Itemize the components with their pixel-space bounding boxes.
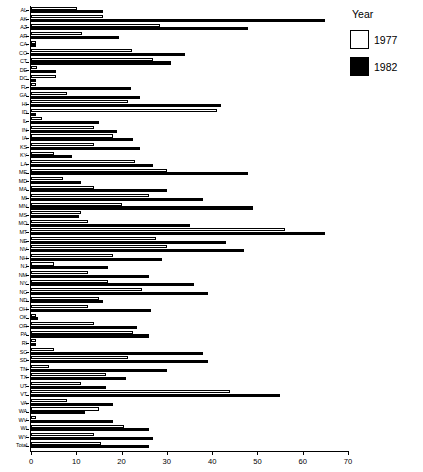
bar-1982: [31, 249, 244, 252]
bar-group: [31, 339, 348, 348]
bar-1977: [31, 7, 77, 10]
bar-group: [31, 160, 348, 169]
bar-1982: [31, 61, 171, 64]
bar-1977: [31, 433, 94, 436]
y-axis-tick: [26, 420, 29, 421]
bar-group: [31, 296, 348, 305]
bar-1982: [31, 198, 203, 201]
y-axis-tick: [26, 224, 29, 225]
bar-1982: [31, 181, 81, 184]
bar-1982: [31, 104, 221, 107]
y-axis-tick: [26, 121, 29, 122]
bar-1982: [31, 10, 103, 13]
y-axis-tick: [26, 130, 29, 131]
bar-group: [31, 143, 348, 152]
bar-1982: [31, 300, 103, 303]
y-axis-tick: [26, 138, 29, 139]
bar-1982: [31, 53, 185, 56]
bar-1982: [31, 19, 325, 22]
bar-1977: [31, 322, 94, 325]
legend-title: Year: [352, 8, 420, 20]
bar-group: [31, 23, 348, 32]
bar-1982: [31, 258, 162, 261]
x-axis-tick-label: 70: [344, 457, 352, 466]
bar-group: [31, 168, 348, 177]
bar-1977: [31, 24, 160, 27]
bar-1982: [31, 36, 119, 39]
bar-1977: [31, 92, 67, 95]
bar-1982: [31, 352, 203, 355]
bar-1982: [31, 155, 72, 158]
x-axis-tick: [31, 451, 32, 455]
bar-1977: [31, 211, 81, 214]
y-axis-tick: [26, 395, 29, 396]
bar-1982: [31, 292, 208, 295]
bar-1977: [31, 177, 63, 180]
y-axis-tick: [26, 335, 29, 336]
bar-group: [31, 40, 348, 49]
bar-1977: [31, 109, 217, 112]
bar-1982: [31, 266, 108, 269]
bar-group: [31, 407, 348, 416]
y-axis-tick: [26, 19, 29, 20]
bar-1982: [31, 44, 36, 47]
bar-1977: [31, 83, 36, 86]
bar-1977: [31, 100, 128, 103]
bar-1982: [31, 437, 153, 440]
x-axis-tick: [212, 451, 213, 455]
bar-1977: [31, 220, 88, 223]
x-axis-tick-label: 60: [298, 457, 306, 466]
y-axis-tick: [26, 232, 29, 233]
y-axis-tick: [26, 258, 29, 259]
legend-swatch-1977-icon: [350, 30, 369, 49]
bar-group: [31, 6, 348, 15]
y-axis-tick: [26, 27, 29, 28]
bar-1982: [31, 309, 151, 312]
bar-group: [31, 194, 348, 203]
bar-1982: [31, 87, 131, 90]
bar-1982: [31, 403, 113, 406]
bar-1982: [31, 189, 167, 192]
bar-1977: [31, 58, 153, 61]
bar-1977: [31, 297, 99, 300]
bar-group: [31, 91, 348, 100]
bar-group: [31, 211, 348, 220]
bar-1982: [31, 394, 280, 397]
bar-1982: [31, 326, 137, 329]
bar-1977: [31, 305, 88, 308]
bar-group: [31, 441, 348, 450]
y-axis-tick: [26, 403, 29, 404]
x-axis-line: [30, 451, 349, 452]
y-axis-tick: [26, 412, 29, 413]
bar-group: [31, 288, 348, 297]
bar-group: [31, 433, 348, 442]
y-axis-tick: [26, 44, 29, 45]
y-axis-tick: [26, 62, 29, 63]
bar-group: [31, 347, 348, 356]
bar-1977: [31, 365, 49, 368]
bar-1982: [31, 164, 153, 167]
y-axis-tick: [26, 429, 29, 430]
bar-1982: [31, 283, 194, 286]
x-axis-tick: [257, 451, 258, 455]
legend-swatch-1982-icon: [350, 57, 369, 76]
bar-1982: [31, 445, 149, 448]
bar-group: [31, 202, 348, 211]
bar-group: [31, 57, 348, 66]
bar-1977: [31, 356, 128, 359]
bar-1977: [31, 117, 42, 120]
horizontal-bar-chart: ALAKAZARCACOCTDEDCFLGAHIIDILINIAKSKYLAME…: [0, 0, 423, 472]
bar-group: [31, 313, 348, 322]
x-axis-tick: [167, 451, 168, 455]
plot-area: [31, 6, 348, 450]
chart-legend: Year 1977 1982: [350, 8, 420, 84]
bar-1977: [31, 160, 135, 163]
bar-group: [31, 322, 348, 331]
bar-group: [31, 108, 348, 117]
bar-1977: [31, 390, 230, 393]
bar-1977: [31, 245, 167, 248]
bar-1977: [31, 228, 285, 231]
y-axis-tick: [26, 198, 29, 199]
y-axis-tick: [26, 292, 29, 293]
bar-group: [31, 364, 348, 373]
